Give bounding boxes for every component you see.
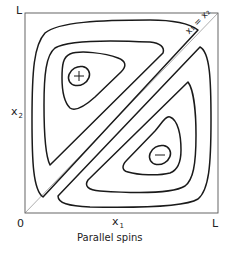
x-axis-label-sub: 1 [120,222,124,230]
x-axis-end-label: L [212,218,218,229]
origin-label: 0 [17,218,24,229]
y-axis-label: x2 [11,106,23,117]
upper-left-contours [32,20,198,197]
x-axis-label: x1 [112,216,124,227]
x-axis-label-main: x [112,215,119,228]
lower-right-contours [58,47,211,207]
figure-caption: Parallel spins [77,233,143,243]
contour-second-upper [44,41,163,165]
plus-sign-icon [74,71,84,81]
y-axis-label-main: x [11,105,18,118]
y-axis-end-label: L [16,5,22,16]
contour-diagram: x₁ = x₂ L 0 L x1 x2 Parallel spins [0,0,232,255]
y-axis-label-sub: 2 [19,112,23,120]
contour-third-lower [123,117,181,175]
